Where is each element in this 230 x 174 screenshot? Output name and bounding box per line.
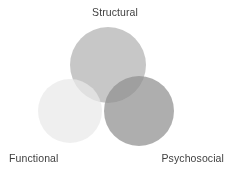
venn-diagram-canvas xyxy=(0,0,230,174)
venn-label-structural: Structural xyxy=(0,6,230,18)
venn-circle-functional xyxy=(38,79,102,143)
venn-diagram-figure: Structural Functional Psychosocial xyxy=(0,0,230,174)
venn-label-functional: Functional xyxy=(9,152,58,164)
venn-label-psychosocial: Psychosocial xyxy=(162,152,224,164)
venn-circle-psychosocial xyxy=(104,76,174,146)
